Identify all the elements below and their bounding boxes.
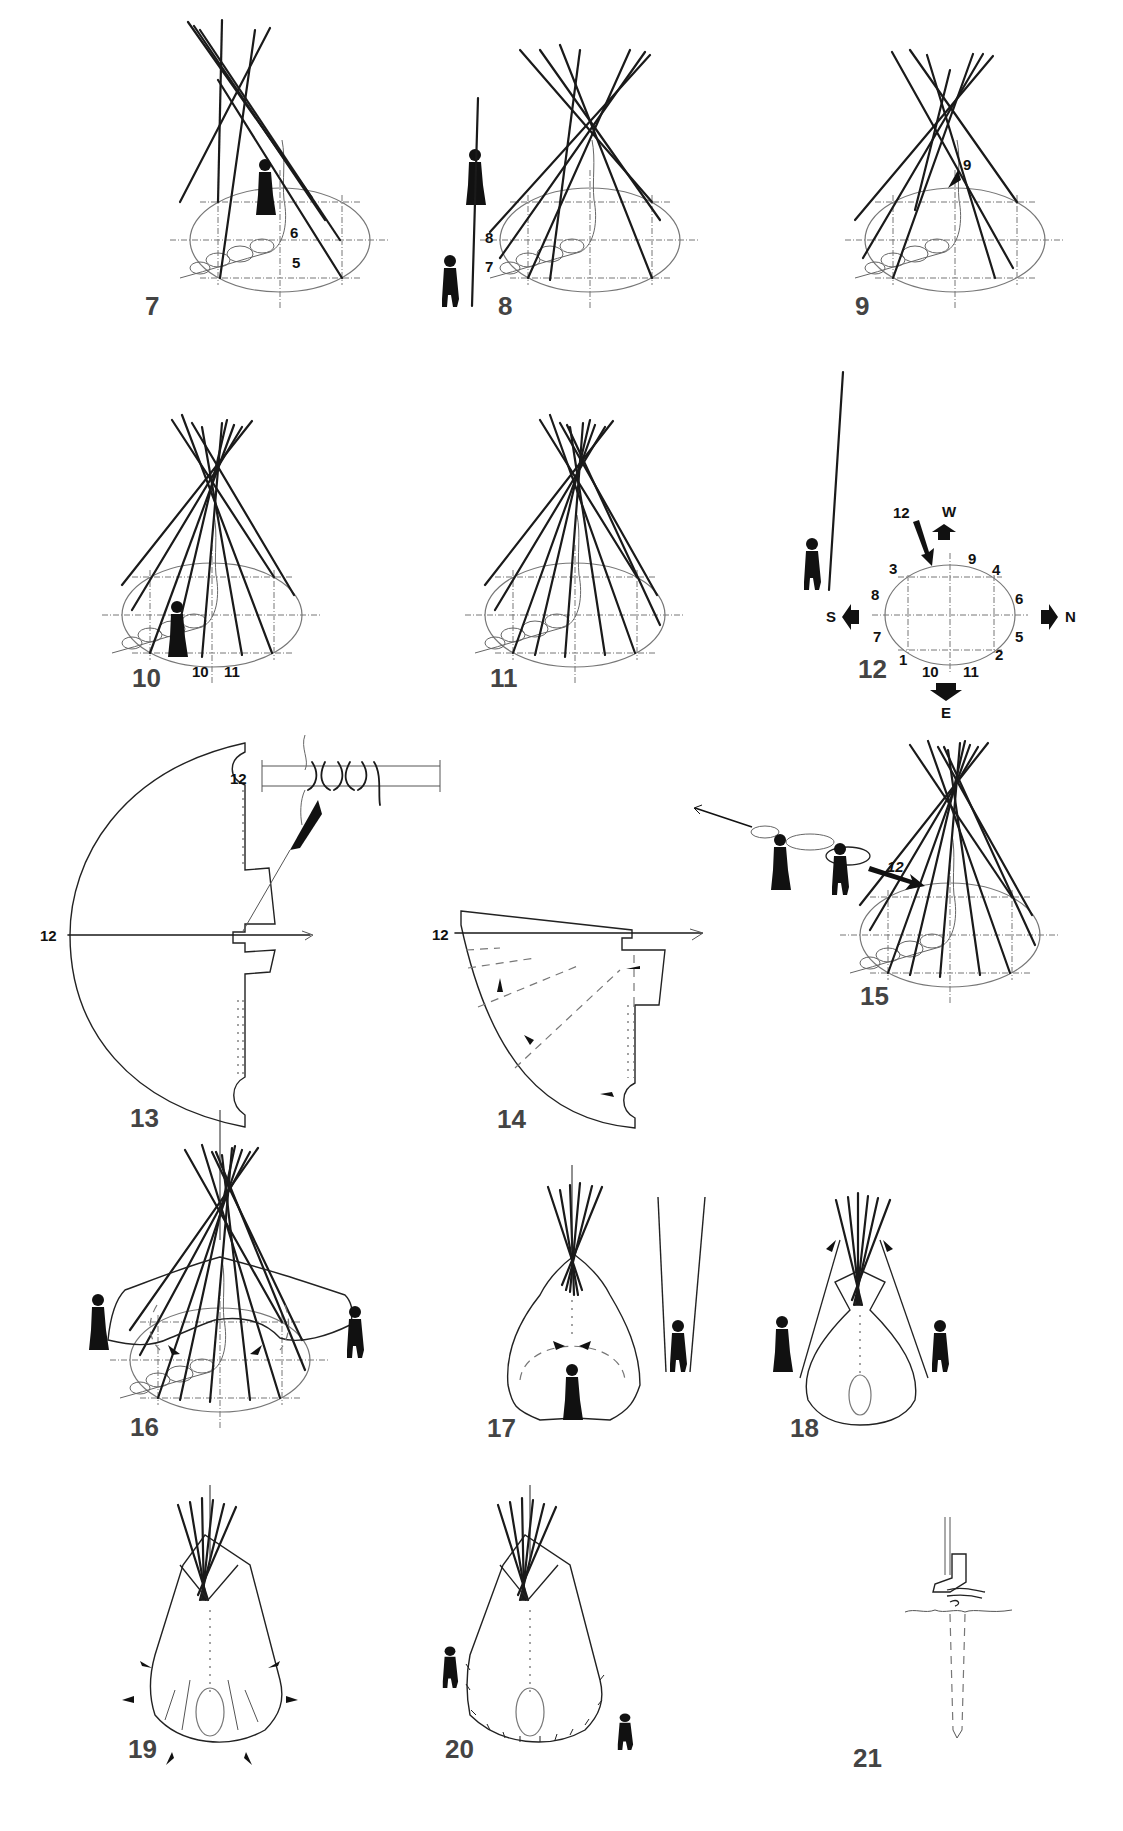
man-figure — [932, 1320, 949, 1372]
pole-label-11: 11 — [963, 663, 979, 680]
pole-label-10: 10 — [922, 663, 939, 680]
pole-label-12-detail: 12 — [230, 770, 247, 787]
man-kneeling-figure — [443, 1646, 458, 1688]
man-figure — [832, 843, 849, 895]
wrap-arrow — [168, 1345, 180, 1355]
step-number: 15 — [860, 981, 889, 1011]
step-17: 17 — [487, 1165, 705, 1443]
step-8: 8 7 8 — [442, 45, 700, 321]
tipi-cover — [467, 1535, 602, 1742]
tipi-raising-diagram: 6 5 7 8 7 8 — [0, 0, 1123, 1831]
woman-figure — [89, 1294, 109, 1350]
wrap-arrow — [250, 1345, 262, 1355]
east-arrow-icon — [930, 683, 962, 701]
tipi-poles — [490, 45, 660, 280]
pole-label-5: 5 — [1015, 628, 1023, 645]
north-arrow-icon — [1041, 604, 1058, 630]
stretch-arrow — [244, 1752, 252, 1765]
compass-n: N — [1065, 608, 1076, 625]
pole-label-9: 9 — [963, 156, 971, 173]
lifting-pole — [829, 372, 843, 590]
folded-cover — [461, 911, 665, 1128]
smoke-flap-arrow — [826, 1240, 836, 1252]
step-14: 12 14 — [432, 911, 703, 1134]
pole-label-7: 7 — [485, 258, 493, 275]
tipi-cover — [806, 1270, 916, 1425]
pole-label-12: 12 — [893, 504, 910, 521]
pole-label-12: 12 — [40, 927, 57, 944]
stretch-arrow — [140, 1661, 152, 1668]
tipi-cover — [150, 1535, 281, 1742]
south-arrow-icon — [842, 604, 859, 630]
step-18: 18 — [773, 1193, 949, 1443]
pole-label-2: 2 — [995, 646, 1003, 663]
pole-label-4: 4 — [992, 561, 1001, 578]
man-figure — [804, 538, 821, 590]
woman-figure — [773, 1316, 793, 1372]
compass-w: W — [942, 503, 957, 520]
step-12: 12 W 3 9 4 8 6 S N 7 5 1 2 10 11 E 12 — [804, 372, 1076, 721]
pole-label-8: 8 — [871, 586, 879, 603]
step-number: 8 — [498, 291, 512, 321]
step-11: 11 — [465, 415, 685, 693]
woman-figure — [771, 834, 791, 890]
stretch-arrow — [166, 1752, 174, 1765]
step-20: 20 — [443, 1485, 633, 1764]
ground-line — [905, 1610, 1012, 1612]
tipi-poles — [855, 50, 1017, 278]
step-number: 17 — [487, 1413, 516, 1443]
step-13: 12 12 13 — [40, 735, 440, 1133]
pole-label-12: 12 — [432, 926, 449, 943]
pole-label-10: 10 — [192, 663, 209, 680]
step-19: 19 — [122, 1485, 298, 1765]
pole-label-3: 3 — [889, 560, 897, 577]
step-10: 10 11 10 — [102, 415, 322, 693]
pole-label-6: 6 — [290, 224, 298, 241]
step-number: 13 — [130, 1103, 159, 1133]
stretch-arrow — [122, 1696, 134, 1703]
man-figure — [442, 255, 459, 307]
step-number: 9 — [855, 291, 869, 321]
step-number: 11 — [490, 663, 518, 693]
pole-label-5: 5 — [292, 254, 300, 271]
compass-s: S — [826, 608, 836, 625]
pole-label-7: 7 — [873, 628, 881, 645]
lifting-pole — [695, 808, 752, 827]
tipi-poles — [130, 1110, 305, 1402]
compass-e: E — [941, 704, 951, 721]
pole-label-12: 12 — [887, 858, 904, 875]
west-arrow-icon — [932, 524, 956, 540]
step-15: 12 15 — [694, 741, 1060, 1011]
pole-label-9: 9 — [968, 550, 976, 567]
woman-kneeling-figure — [618, 1714, 633, 1750]
stretch-arrow — [286, 1696, 298, 1703]
tipi-poles — [122, 415, 294, 657]
step-number: 14 — [497, 1104, 526, 1134]
man-figure — [670, 1320, 687, 1372]
step-number: 10 — [132, 663, 161, 693]
step-9: 9 9 — [845, 50, 1065, 321]
pole-label-11: 11 — [224, 663, 240, 680]
step-7: 6 5 7 — [145, 20, 390, 321]
step-number: 19 — [128, 1734, 157, 1764]
step-21: 21 — [853, 1517, 1012, 1773]
pole-label-8: 8 — [485, 229, 493, 246]
step-number: 7 — [145, 291, 159, 321]
detail-arrow — [290, 800, 322, 850]
step-16: 16 — [89, 1110, 364, 1442]
pole-label-6: 6 — [1015, 590, 1023, 607]
pole-12-arrow — [913, 520, 934, 566]
step-number: 20 — [445, 1734, 474, 1764]
step-number: 16 — [130, 1412, 159, 1442]
lashing-detail — [262, 735, 440, 825]
step-number: 12 — [858, 654, 887, 684]
man-figure — [347, 1306, 364, 1358]
step-number: 21 — [853, 1743, 882, 1773]
step-number: 18 — [790, 1413, 819, 1443]
pole-label-1: 1 — [899, 651, 907, 668]
smoke-flap-arrow — [883, 1240, 893, 1252]
